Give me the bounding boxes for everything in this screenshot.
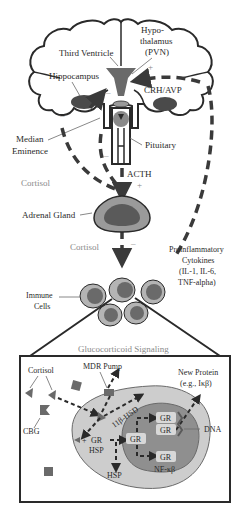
label-pituitary: Pituitary <box>145 140 176 150</box>
label-crh-avp: CRH/AVP <box>144 85 182 95</box>
label-cbg: CBG <box>23 427 40 436</box>
label-mdr-pump: MDR Pump <box>83 362 122 371</box>
mdr-pump-icon <box>104 389 114 396</box>
label-cytokines-2: Cytokines <box>182 256 214 265</box>
sign-minus-pituitary: – <box>103 150 109 160</box>
label-cortisol-box: Cortisol <box>28 366 55 375</box>
label-gr-dimer-2: GR <box>160 426 172 435</box>
label-cortisol-down: Cortisol <box>70 242 100 252</box>
label-gr-nuclear: GR <box>130 435 142 444</box>
label-new-protein-1: New Protein <box>178 368 218 377</box>
signaling-title: Glucocorticoid Signaling <box>78 344 169 354</box>
label-hypothalamus-1: Hypo- <box>141 25 164 35</box>
label-adrenal-gland: Adrenal Gland <box>22 210 76 220</box>
adrenal-gland <box>94 196 150 232</box>
label-gr-dimer-1: GR <box>160 414 172 423</box>
label-median-2: Eminence <box>12 146 48 156</box>
hpa-axis-diagram: Third Ventricle Hypo- thalamus (PVN) Hip… <box>0 0 242 509</box>
sign-minus-cortisol: – <box>130 238 136 248</box>
label-gr-hsp-gr: GR <box>91 436 103 445</box>
label-hypothalamus-3: (PVN) <box>145 47 169 57</box>
label-acth: ACTH <box>127 169 152 179</box>
sign-minus-median: – <box>59 110 65 120</box>
sign-plus-gr: + <box>82 436 87 445</box>
label-immune-2: Cells <box>34 302 50 311</box>
label-nfkb: NF-κβ <box>154 465 175 474</box>
label-immune-1: Immune <box>26 291 53 300</box>
immune-cells <box>80 278 165 326</box>
label-hypothalamus-2: thalamus <box>140 36 173 46</box>
label-gr-nfkb: GR <box>160 453 172 462</box>
hippocampus-right <box>153 97 177 111</box>
label-cytokines-4: TNF-alpha) <box>178 278 216 287</box>
sign-plus-hypothalamus: + <box>148 62 153 72</box>
label-dna: DNA <box>204 425 222 434</box>
cbg-molecule-icon <box>44 467 53 476</box>
label-median-1: Median <box>16 134 44 144</box>
sign-plus-acth: + <box>137 180 142 190</box>
label-cytokines-1: Proinflammatory <box>169 245 224 254</box>
label-third-ventricle: Third Ventricle <box>59 48 114 58</box>
label-new-protein-2: (e.g., Iκβ) <box>180 379 212 388</box>
brain <box>29 19 213 164</box>
label-hsp-free: HSP <box>107 471 122 480</box>
label-cortisol-left: Cortisol <box>21 178 51 188</box>
label-cytokines-3: (IL-1, IL-6, <box>179 267 216 276</box>
median-eminence-shape <box>113 101 129 107</box>
cortisol-feedback-arrow-left <box>62 128 118 190</box>
label-gr-hsp-hsp: HSP <box>89 446 104 455</box>
label-hippocampus: Hippocampus <box>49 71 99 81</box>
sign-minus-hippocampus: – <box>105 87 111 97</box>
